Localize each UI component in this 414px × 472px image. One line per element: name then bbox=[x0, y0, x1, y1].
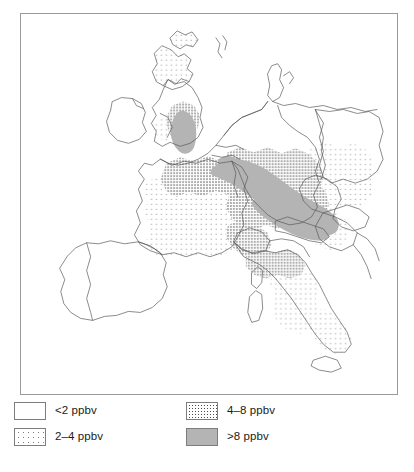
map-frame bbox=[20, 13, 398, 395]
legend-item-4-8: 4–8 ppbv bbox=[186, 402, 275, 420]
legend-label-4-8: 4–8 ppbv bbox=[227, 405, 275, 417]
legend-swatch-2-4 bbox=[14, 428, 46, 446]
legend-item-2-4: 2–4 ppbv bbox=[14, 428, 103, 446]
europe-ppbv-figure: <2 ppbv 2–4 ppbv 4–8 ppbv >8 ppbv bbox=[0, 0, 414, 472]
legend-item-over-8: >8 ppbv bbox=[186, 428, 269, 446]
legend-swatch-under-2 bbox=[14, 402, 46, 420]
europe-map bbox=[21, 14, 397, 394]
legend-label-2-4: 2–4 ppbv bbox=[55, 431, 103, 443]
legend-label-over-8: >8 ppbv bbox=[227, 431, 269, 443]
legend-label-under-2: <2 ppbv bbox=[55, 405, 97, 417]
legend-item-under-2: <2 ppbv bbox=[14, 402, 97, 420]
legend-swatch-over-8 bbox=[186, 428, 218, 446]
map-legend: <2 ppbv 2–4 ppbv 4–8 ppbv >8 ppbv bbox=[14, 402, 404, 460]
legend-swatch-4-8 bbox=[186, 402, 218, 420]
